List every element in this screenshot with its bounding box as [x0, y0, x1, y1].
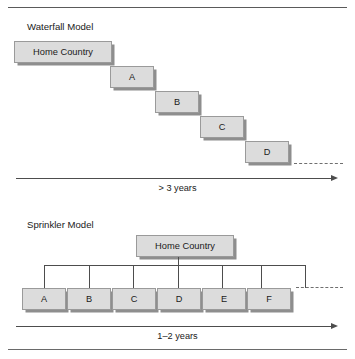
waterfall-timeline-axis: [16, 178, 334, 179]
sprinkler-node-b: B: [67, 288, 111, 310]
sprinkler-drop-b: [89, 265, 90, 288]
waterfall-node-b: B: [155, 91, 199, 113]
sprinkler-timeline-arrowhead: [331, 323, 338, 329]
sprinkler-node-a: A: [22, 288, 66, 310]
sprinkler-drop-c: [133, 265, 134, 288]
waterfall-node-a: A: [110, 66, 154, 88]
sprinkler-section-title: Sprinkler Model: [27, 219, 94, 230]
sprinkler-drop-a: [44, 265, 45, 288]
waterfall-timeline-label: > 3 years: [0, 183, 355, 193]
running-head: WATERFALL VERSUS SPRINKLER MODELS: [0, 0, 355, 6]
sprinkler-bus-bar: [44, 265, 306, 266]
waterfall-continuation-dashes: [294, 163, 343, 164]
waterfall-section-title: Waterfall Model: [27, 21, 93, 32]
sprinkler-node-c: C: [112, 288, 156, 310]
sprinkler-node-f: F: [247, 288, 291, 310]
sprinkler-drop-f: [261, 265, 262, 288]
sprinkler-drop-d: [178, 265, 179, 288]
sprinkler-drop-e: [222, 265, 223, 288]
sprinkler-continuation-dashes: [296, 287, 343, 288]
sprinkler-node-d: D: [157, 288, 201, 310]
sprinkler-timeline-axis: [16, 326, 334, 327]
waterfall-node-d: D: [245, 141, 289, 163]
footer-rule: [8, 349, 347, 350]
header-rule: [8, 7, 347, 8]
sprinkler-node-e: E: [202, 288, 246, 310]
sprinkler-node-home-country: Home Country: [136, 235, 234, 257]
waterfall-timeline-arrowhead: [331, 175, 338, 181]
waterfall-node-home-country: Home Country: [14, 41, 112, 63]
running-head-text: WATERFALL VERSUS SPRINKLER MODELS: [22, 0, 227, 1]
figure-waterfall-versus-sprinkler: WATERFALL VERSUS SPRINKLER MODELS Waterf…: [0, 0, 355, 359]
sprinkler-timeline-label: 1–2 years: [0, 331, 355, 341]
waterfall-node-c: C: [200, 116, 244, 138]
sprinkler-drop-continuation: [305, 265, 306, 288]
